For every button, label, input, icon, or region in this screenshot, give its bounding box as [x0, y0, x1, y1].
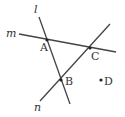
line-n — [40, 24, 110, 101]
point-a-label: A — [39, 41, 49, 54]
line-l — [39, 17, 70, 104]
line-m — [19, 34, 116, 52]
point-c-label: C — [91, 50, 99, 63]
point-b — [59, 78, 62, 81]
line-m-label: m — [6, 27, 16, 40]
point-d-label: D — [104, 75, 113, 88]
line-l-label: l — [34, 3, 38, 16]
point-d — [99, 78, 102, 81]
point-b-label: B — [65, 75, 73, 88]
line-n-label: n — [34, 101, 41, 114]
geometry-diagram: l m n A C B D — [0, 0, 125, 117]
